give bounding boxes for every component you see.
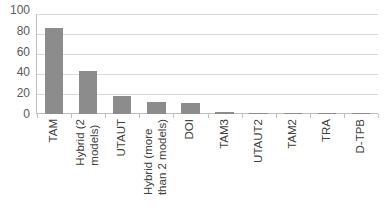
y-axis-tick-label: 40 [17, 66, 30, 78]
x-label-slot: Hybrid (more than 2 models) [139, 119, 173, 217]
bar[interactable] [181, 103, 199, 114]
y-axis-tick-label: 100 [10, 4, 30, 16]
x-axis-tick-mark [378, 114, 379, 118]
x-axis-tick-mark [276, 114, 277, 118]
x-axis-category-label: Hybrid (more than 2 models) [143, 119, 170, 195]
x-label-slot: UTAUT [105, 119, 139, 217]
bar-slot [37, 14, 71, 114]
x-axis-category-label: UTAUT [115, 119, 129, 156]
bar[interactable] [45, 28, 63, 114]
y-axis-tick-label: 60 [17, 46, 30, 58]
bar[interactable] [79, 71, 97, 114]
bar-slot [344, 14, 378, 114]
bar-chart: 020406080100 TAMHybrid (2 models)UTAUTHy… [0, 0, 385, 219]
x-axis-category-label: TAM2 [286, 119, 300, 149]
y-axis-tick-labels: 020406080100 [0, 10, 33, 114]
x-axis-tick-mark [344, 114, 345, 118]
x-axis-category-label: D-TPB [354, 119, 368, 154]
x-axis-category-label: TRA [320, 119, 334, 142]
x-axis-tick-mark [242, 114, 243, 118]
y-axis-tick-label: 20 [17, 87, 30, 99]
x-axis-tick-mark [71, 114, 72, 118]
x-axis-tick-mark [310, 114, 311, 118]
bar[interactable] [113, 96, 131, 114]
bar[interactable] [147, 102, 165, 114]
x-axis-category-label: TAM3 [218, 119, 232, 149]
y-axis-tick-label: 80 [17, 25, 30, 37]
bar-slot [310, 14, 344, 114]
bar-slot [139, 14, 173, 114]
x-axis-category-label: DOI [184, 119, 198, 139]
x-axis-tick-mark [139, 114, 140, 118]
plot-area [37, 14, 378, 114]
y-axis-tick-label: 0 [23, 108, 30, 120]
x-label-slot: TAM2 [276, 119, 310, 217]
bars-container [37, 14, 378, 114]
x-axis-category-labels: TAMHybrid (2 models)UTAUTHybrid (more th… [37, 119, 378, 217]
bar-slot [105, 14, 139, 114]
x-axis-category-label: UTAUT2 [252, 119, 266, 163]
x-axis-tick-marks [37, 114, 378, 118]
x-label-slot: DOI [173, 119, 207, 217]
x-axis-tick-mark [208, 114, 209, 118]
bar-slot [242, 14, 276, 114]
x-label-slot: TRA [310, 119, 344, 217]
x-axis-category-label: Hybrid (2 models) [75, 119, 102, 166]
x-label-slot: D-TPB [344, 119, 378, 217]
bar-slot [207, 14, 241, 114]
bar-slot [71, 14, 105, 114]
x-axis-tick-mark [105, 114, 106, 118]
x-label-slot: Hybrid (2 models) [71, 119, 105, 217]
x-axis-category-label: TAM [47, 119, 61, 142]
x-label-slot: TAM [37, 119, 71, 217]
x-axis-tick-mark [173, 114, 174, 118]
x-axis-tick-mark [37, 114, 38, 118]
x-label-slot: TAM3 [207, 119, 241, 217]
x-label-slot: UTAUT2 [242, 119, 276, 217]
bar-slot [173, 14, 207, 114]
bar-slot [276, 14, 310, 114]
